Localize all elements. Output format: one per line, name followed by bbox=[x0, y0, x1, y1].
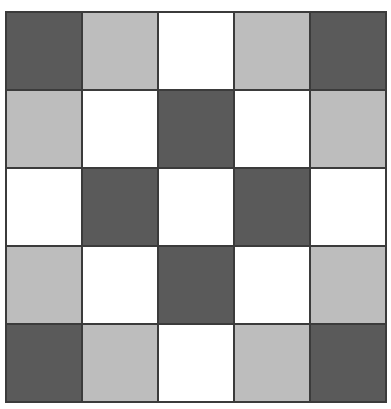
grid-cell-r1-c3 bbox=[159, 13, 233, 89]
grid-cell-r5-c1 bbox=[7, 325, 81, 401]
grid-cell-r3-c2 bbox=[83, 169, 157, 245]
grid-cell-r2-c4 bbox=[235, 91, 309, 167]
grid-cell-r3-c1 bbox=[7, 169, 81, 245]
grid-cell-r5-c5 bbox=[311, 325, 385, 401]
grid-cell-r4-c2 bbox=[83, 247, 157, 323]
grid-cell-r4-c4 bbox=[235, 247, 309, 323]
grid-cell-r2-c3 bbox=[159, 91, 233, 167]
grid-cell-r4-c3 bbox=[159, 247, 233, 323]
figure-canvas bbox=[0, 0, 391, 409]
grid-cell-r3-c4 bbox=[235, 169, 309, 245]
grid-cell-r5-c3 bbox=[159, 325, 233, 401]
checkerboard-grid bbox=[5, 11, 387, 403]
grid-cell-r4-c5 bbox=[311, 247, 385, 323]
grid-cell-r2-c1 bbox=[7, 91, 81, 167]
grid-cell-r2-c2 bbox=[83, 91, 157, 167]
grid-cell-r1-c4 bbox=[235, 13, 309, 89]
grid-cell-r3-c3 bbox=[159, 169, 233, 245]
grid-cell-r2-c5 bbox=[311, 91, 385, 167]
grid-cell-r3-c5 bbox=[311, 169, 385, 245]
grid-cell-r4-c1 bbox=[7, 247, 81, 323]
grid-cell-r1-c5 bbox=[311, 13, 385, 89]
grid-cell-r5-c2 bbox=[83, 325, 157, 401]
grid-cell-r1-c2 bbox=[83, 13, 157, 89]
grid-cell-r1-c1 bbox=[7, 13, 81, 89]
grid-cell-r5-c4 bbox=[235, 325, 309, 401]
